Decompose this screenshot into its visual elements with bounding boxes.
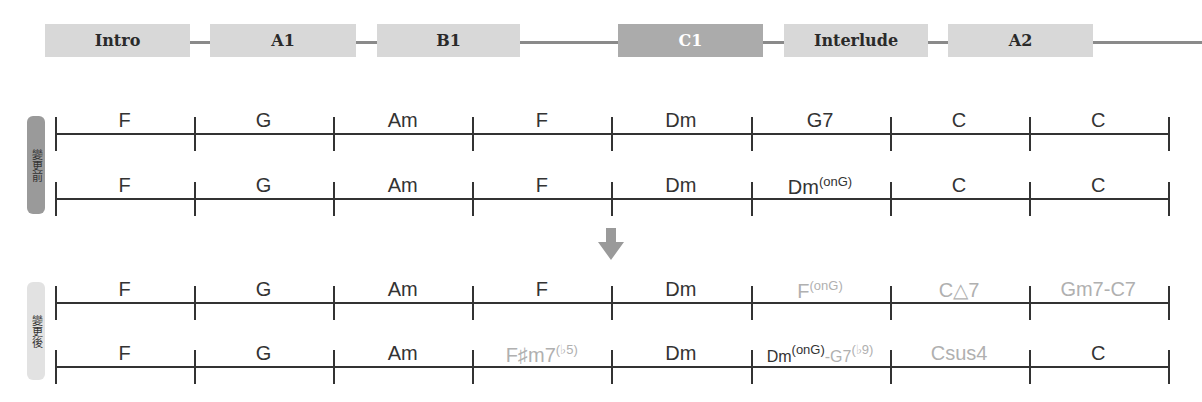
chord-row-after-2: FGAmF♯m7(♭5)DmDm(onG)-G7(♭9)Csus4C (55, 342, 1168, 382)
chord: G (194, 109, 333, 132)
chord: Dm (611, 342, 750, 365)
label-before: 變更前 (27, 116, 45, 214)
chord: G (194, 278, 333, 301)
barline (1168, 286, 1170, 320)
chord: F (472, 109, 611, 132)
connector (520, 41, 618, 44)
connector (356, 41, 377, 44)
barline (1168, 117, 1170, 151)
chord: C (890, 174, 1029, 197)
chord: Gm7-C7 (1029, 278, 1168, 301)
chord: Dm (611, 278, 750, 301)
chord: F (55, 278, 194, 301)
chord: Am (333, 109, 472, 132)
chord: Csus4 (890, 342, 1029, 365)
chord: Dm(onG) (751, 174, 890, 199)
chord: C (890, 109, 1029, 132)
barline (1168, 182, 1170, 216)
connector (1093, 41, 1202, 44)
chord: F (55, 342, 194, 365)
chord: F (472, 278, 611, 301)
chord: Am (333, 342, 472, 365)
arrow-down-icon (598, 228, 624, 260)
chord-row-before-2: FGAmFDmDm(onG)CC (55, 174, 1168, 214)
chord: C△7 (890, 278, 1029, 302)
chord: F (55, 174, 194, 197)
chord: C (1029, 342, 1168, 365)
section-c1: C1 (618, 24, 763, 57)
chord: G (194, 174, 333, 197)
label-after-text: 變更後 (30, 315, 43, 348)
chord: G7 (751, 109, 890, 132)
section-b1: B1 (377, 24, 520, 57)
section-a1: A1 (210, 24, 356, 57)
connector (763, 41, 784, 44)
label-before-text: 變更前 (30, 149, 43, 182)
chord: C (1029, 109, 1168, 132)
chord: Dm(onG)-G7(♭9) (751, 342, 890, 366)
section-intro: Intro (45, 24, 190, 57)
chord: F(onG) (751, 278, 890, 303)
label-after: 變更後 (27, 282, 45, 380)
chord-row-after-1: FGAmFDmF(onG)C△7Gm7-C7 (55, 278, 1168, 318)
chord: F♯m7(♭5) (472, 342, 611, 367)
chord: F (55, 109, 194, 132)
section-a2: A2 (948, 24, 1093, 57)
section-interlude: Interlude (784, 24, 928, 57)
chord: F (472, 174, 611, 197)
chord: C (1029, 174, 1168, 197)
chord: Dm (611, 174, 750, 197)
section-timeline: Intro A1 B1 C1 Interlude A2 (0, 0, 1202, 80)
barline (1168, 350, 1170, 384)
connector (190, 41, 210, 44)
chord: G (194, 342, 333, 365)
chord-row-before-1: FGAmFDmG7CC (55, 109, 1168, 149)
chord: Dm (611, 109, 750, 132)
chord: Am (333, 174, 472, 197)
chord: Am (333, 278, 472, 301)
connector (928, 41, 948, 44)
